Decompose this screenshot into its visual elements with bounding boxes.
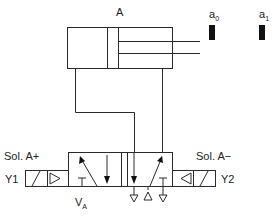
arrowhead <box>131 176 137 184</box>
blocked-port-left <box>78 178 86 186</box>
cylinder-label: A <box>116 6 124 18</box>
solenoid-y2 <box>173 171 216 187</box>
sensor-a1-label: a1 <box>259 8 269 22</box>
pressure-port <box>144 192 152 200</box>
pneumatic-diagram: A a0 a1 Sol. A+ Y1 Sol. A− Y2 VA <box>0 0 272 216</box>
blocked-port-right <box>159 178 167 186</box>
cylinder-body <box>68 28 173 69</box>
line-port-a <box>76 69 135 153</box>
cylinder-a <box>68 28 201 69</box>
exhaust-port-1 <box>130 195 138 202</box>
solenoid-y2-name: Sol. A− <box>196 150 231 162</box>
valve-cell-divider <box>122 153 128 187</box>
solenoid-actuator-icon <box>181 173 191 184</box>
sensor-a0-label: a0 <box>209 8 219 22</box>
sensor-a1 <box>259 25 265 40</box>
solenoid-coil-icon <box>200 171 208 186</box>
solenoid-coil-icon <box>32 171 40 186</box>
solenoid-y1-id: Y1 <box>5 173 18 185</box>
solenoid-y1 <box>26 171 69 187</box>
cylinder-rod <box>119 42 201 54</box>
arrowhead <box>104 176 110 184</box>
valve-cell-left <box>69 153 122 187</box>
exhaust-port-2 <box>159 195 167 202</box>
valve-va <box>69 152 173 202</box>
solenoid-y2-id: Y2 <box>221 173 234 185</box>
solenoid-y1-name: Sol. A+ <box>4 150 39 162</box>
valve-label: VA <box>75 196 87 210</box>
cylinder-piston <box>108 28 119 69</box>
arrowhead <box>79 156 85 164</box>
sensor-a0 <box>209 25 215 40</box>
arrowhead <box>157 156 163 163</box>
solenoid-actuator-icon <box>50 173 60 184</box>
